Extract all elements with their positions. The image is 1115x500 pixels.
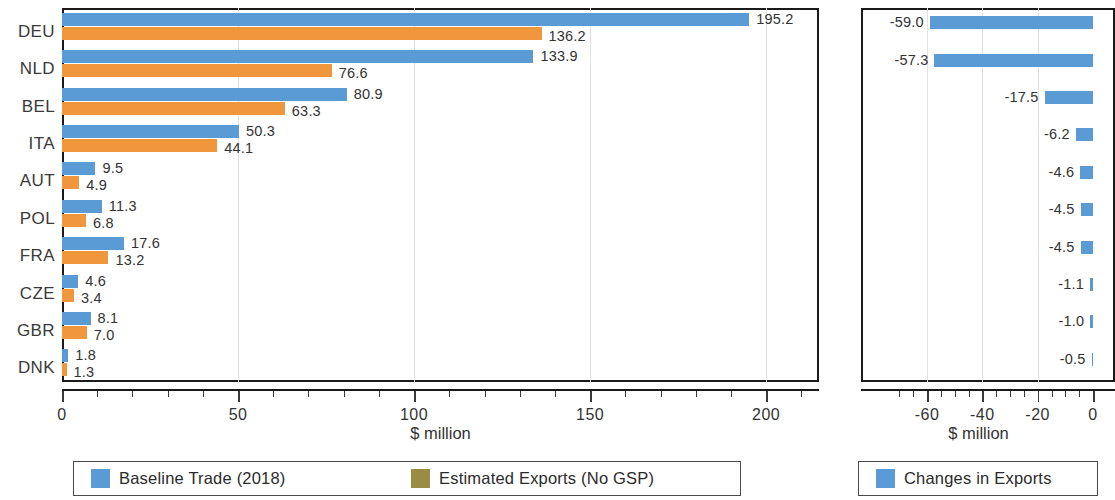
legend-entry-estimated-exports: Estimated Exports (No GSP) [411, 469, 654, 488]
x-tick-110 [449, 391, 450, 397]
x-tick-label-100: 100 [384, 406, 444, 424]
category-label-POL: POL [0, 209, 55, 229]
bar-changes-4 [1080, 166, 1093, 179]
bar-baseline-CZE [62, 275, 78, 288]
value-label-baseline-NLD: 133.9 [540, 48, 577, 64]
value-label-baseline-AUT: 9.5 [102, 160, 123, 176]
category-label-ITA: ITA [0, 134, 55, 154]
bar-estimated-CZE [62, 289, 74, 302]
value-label-changes-8: -1.0 [1038, 313, 1084, 329]
x-tick--25 [1024, 391, 1025, 397]
x-tick--20 [1038, 391, 1040, 402]
value-label-changes-0: -59.0 [878, 14, 924, 30]
category-label-FRA: FRA [0, 246, 55, 266]
x-tick-20 [132, 391, 133, 397]
right-chart-legend: Changes in Exports [858, 461, 1098, 496]
category-label-CZE: CZE [0, 284, 55, 304]
bar-baseline-DNK [62, 349, 68, 362]
x-tick-50 [238, 391, 240, 402]
value-label-changes-3: -6.2 [1024, 126, 1070, 142]
value-label-baseline-DNK: 1.8 [75, 347, 96, 363]
category-label-NLD: NLD [0, 59, 55, 79]
legend-label-baseline-trade: Baseline Trade (2018) [119, 469, 286, 488]
x-tick-210 [801, 391, 802, 397]
legend-entry-changes-in-exports: Changes in Exports [876, 469, 1052, 488]
x-tick--5 [1079, 391, 1080, 397]
x-tick-label-150: 150 [560, 406, 620, 424]
bar-baseline-BEL [62, 88, 347, 101]
legend-swatch-estimated-exports [411, 469, 430, 488]
x-tick--65 [913, 391, 914, 397]
x-tick-140 [555, 391, 556, 397]
bar-baseline-NLD [62, 50, 533, 63]
gridline-x-200 [766, 8, 767, 382]
x-tick-label-0: 0 [1063, 406, 1115, 424]
category-label-AUT: AUT [0, 171, 55, 191]
bar-changes-9 [1092, 353, 1093, 366]
bar-changes-0 [930, 16, 1093, 29]
bar-baseline-AUT [62, 162, 95, 175]
value-label-estimated-DEU: 136.2 [549, 28, 586, 44]
value-label-changes-6: -4.5 [1029, 239, 1075, 255]
value-label-estimated-ITA: 44.1 [224, 140, 253, 156]
category-label-DNK: DNK [0, 358, 55, 378]
x-tick-190 [731, 391, 732, 397]
value-label-baseline-FRA: 17.6 [131, 235, 160, 251]
value-label-changes-2: -17.5 [993, 89, 1039, 105]
x-tick-120 [485, 391, 486, 397]
bar-estimated-DNK [62, 363, 67, 376]
value-label-estimated-GBR: 7.0 [94, 327, 115, 343]
value-label-estimated-BEL: 63.3 [292, 103, 321, 119]
value-label-changes-7: -1.1 [1038, 276, 1084, 292]
left-chart-legend: Baseline Trade (2018) Estimated Exports … [73, 461, 741, 496]
category-label-DEU: DEU [0, 22, 55, 42]
x-tick-100 [414, 391, 416, 402]
value-label-baseline-ITA: 50.3 [246, 123, 275, 139]
value-label-estimated-CZE: 3.4 [81, 290, 102, 306]
x-tick--45 [969, 391, 970, 397]
right-chart-panel: -59.0-57.3-17.5-6.2-4.6-4.5-4.5-1.1-1.0-… [840, 0, 1115, 500]
bar-baseline-GBR [62, 312, 91, 325]
value-label-changes-5: -4.5 [1029, 201, 1075, 217]
x-tick--35 [996, 391, 997, 397]
value-label-baseline-CZE: 4.6 [85, 273, 106, 289]
figure-root: DEUNLDBELITAAUTPOLFRACZEGBRDNK 195.2136.… [0, 0, 1115, 500]
bar-estimated-AUT [62, 176, 79, 189]
x-tick-40 [203, 391, 204, 397]
value-label-baseline-GBR: 8.1 [98, 310, 119, 326]
category-label-GBR: GBR [0, 321, 55, 341]
x-tick-0 [62, 391, 64, 402]
x-tick-90 [379, 391, 380, 397]
value-label-changes-9: -0.5 [1040, 351, 1086, 367]
x-tick-170 [661, 391, 662, 397]
category-label-BEL: BEL [0, 97, 55, 117]
x-tick--15 [1052, 391, 1053, 397]
left-chart-panel: DEUNLDBELITAAUTPOLFRACZEGBRDNK 195.2136.… [0, 0, 840, 500]
x-tick--55 [941, 391, 942, 397]
bar-estimated-NLD [62, 64, 332, 77]
left-chart-x-axis [62, 389, 819, 391]
x-tick-150 [590, 391, 592, 402]
bar-estimated-POL [62, 214, 86, 227]
right-chart-x-axis-title: $ million [861, 424, 1096, 443]
x-tick-label-200: 200 [736, 406, 796, 424]
bar-changes-6 [1081, 241, 1093, 254]
x-tick--70 [899, 391, 900, 397]
bar-changes-5 [1081, 203, 1093, 216]
bar-changes-2 [1045, 91, 1093, 104]
gridline-x-150 [590, 8, 591, 382]
x-tick-10 [97, 391, 98, 397]
x-tick-60 [273, 391, 274, 397]
bar-estimated-DEU [62, 27, 542, 40]
x-tick--10 [1065, 391, 1066, 397]
value-label-changes-4: -4.6 [1028, 164, 1074, 180]
x-tick--60 [927, 391, 929, 402]
legend-swatch-changes-in-exports [876, 469, 895, 488]
legend-swatch-baseline-trade [91, 469, 110, 488]
x-tick--50 [955, 391, 956, 397]
bar-baseline-ITA [62, 125, 239, 138]
bar-baseline-POL [62, 200, 102, 213]
value-label-estimated-FRA: 13.2 [115, 252, 144, 268]
x-tick-label--60: -60 [897, 406, 957, 424]
bar-estimated-FRA [62, 251, 108, 264]
